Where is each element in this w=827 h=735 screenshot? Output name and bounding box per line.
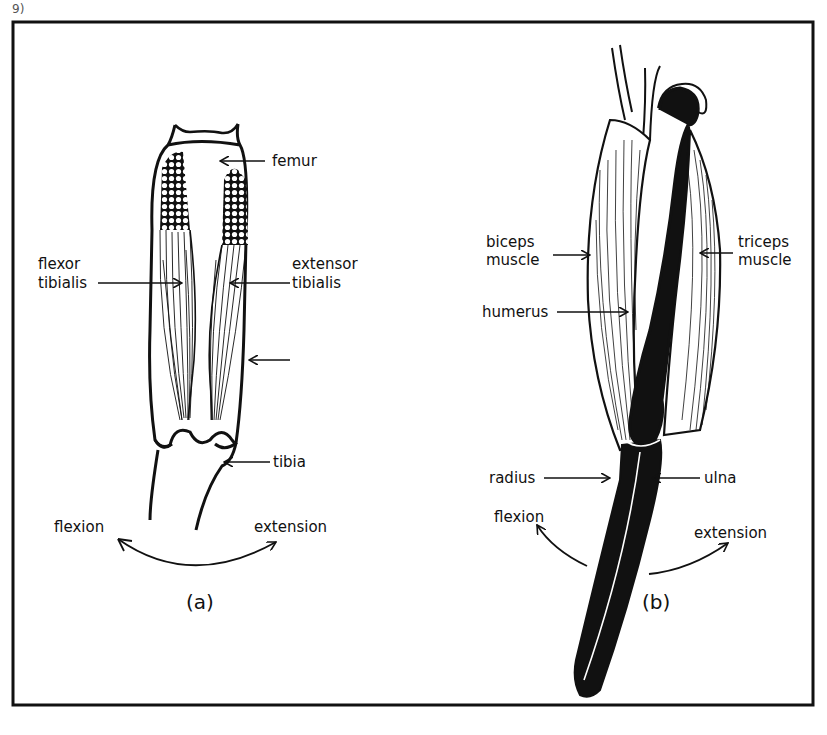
- extension-arrow-b: [649, 543, 728, 574]
- label-flexion-a: flexion: [54, 518, 104, 536]
- label-extension-a: extension: [254, 518, 327, 536]
- motion-arc-a: [118, 539, 276, 565]
- label-triceps-line1: triceps: [738, 233, 789, 251]
- label-biceps-line1: biceps: [486, 233, 535, 251]
- tibia-outline: [150, 450, 158, 520]
- label-ulna: ulna: [704, 469, 736, 487]
- flexion-arrow-b: [537, 525, 587, 566]
- label-flexor-line1: flexor: [38, 255, 80, 273]
- caption-a: (a): [186, 590, 214, 614]
- flexor-tibialis-muscle: [160, 230, 196, 420]
- label-biceps-line2: muscle: [486, 251, 540, 269]
- label-triceps-line2: muscle: [738, 251, 792, 269]
- label-extensor-line2: tibialis: [292, 274, 341, 292]
- label-extensor-line1: extensor: [292, 255, 358, 273]
- label-radius: radius: [489, 469, 535, 487]
- diagram-canvas: [0, 0, 827, 735]
- label-flexor-line2: tibialis: [38, 274, 87, 292]
- corner-mark: 9): [12, 0, 24, 18]
- extensor-insertion-dots: [222, 169, 248, 245]
- label-extension-b: extension: [694, 524, 767, 542]
- label-tibia: tibia: [273, 453, 306, 471]
- label-humerus: humerus: [482, 303, 548, 321]
- human-arm-drawing: [537, 45, 733, 697]
- caption-b: (b): [642, 590, 670, 614]
- label-flexion-b: flexion: [494, 508, 544, 526]
- insect-leg-drawing: [98, 124, 290, 565]
- flexor-insertion-dots: [160, 152, 190, 230]
- label-femur: femur: [272, 152, 317, 170]
